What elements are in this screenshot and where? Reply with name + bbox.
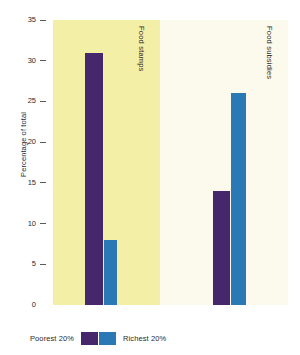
y-axis-tick: 25 xyxy=(0,96,50,106)
y-axis-tick-label: 15 xyxy=(28,178,36,188)
bar-chart-figure: Percentage of total 05101520253035 Food … xyxy=(0,0,300,355)
y-axis-tick-mark xyxy=(40,182,46,183)
y-axis-tick: 10 xyxy=(0,219,50,229)
y-axis-tick-label: 0 xyxy=(32,300,36,310)
y-axis-tick: 5 xyxy=(0,259,50,269)
legend-swatch-richest xyxy=(99,332,116,345)
panel-label-food-subsidies: Food subsidies xyxy=(269,26,279,106)
bar xyxy=(213,191,230,305)
legend-label-richest: Richest 20% xyxy=(123,334,166,343)
y-axis-tick: 20 xyxy=(0,137,50,147)
bar xyxy=(231,93,246,305)
y-axis-tick-mark xyxy=(40,101,46,102)
y-axis-tick-mark xyxy=(40,60,46,61)
panel-label-text: Food stamps xyxy=(137,26,146,72)
y-axis-tick-mark xyxy=(40,142,46,143)
y-axis-tick-label: 10 xyxy=(28,219,36,229)
panel-food-stamps: Food stamps xyxy=(53,20,160,305)
panel-food-subsidies: Food subsidies xyxy=(160,20,288,305)
bar xyxy=(85,53,103,305)
y-axis-tick: 15 xyxy=(0,178,50,188)
legend-label-poorest: Poorest 20% xyxy=(30,334,74,343)
y-axis-tick: 30 xyxy=(0,56,50,66)
legend-swatch-poorest xyxy=(81,332,98,345)
y-axis-tick-label: 30 xyxy=(28,56,36,66)
legend-swatches xyxy=(81,332,116,345)
y-axis-tick-label: 25 xyxy=(28,96,36,106)
y-axis-tick: 0 xyxy=(0,300,50,310)
y-axis-tick-label: 35 xyxy=(28,15,36,25)
panel-label-food-stamps: Food stamps xyxy=(141,26,151,106)
panel-label-text: Food subsidies xyxy=(265,26,274,79)
y-axis-tick-mark xyxy=(40,20,46,21)
y-axis-tick-label: 5 xyxy=(32,259,36,269)
chart-legend: Poorest 20% Richest 20% xyxy=(30,331,166,345)
y-axis-tick-mark xyxy=(40,223,46,224)
bar xyxy=(104,240,117,305)
y-axis-tick: 35 xyxy=(0,15,50,25)
y-axis-tick-mark xyxy=(40,264,46,265)
y-axis-tick-label: 20 xyxy=(28,137,36,147)
